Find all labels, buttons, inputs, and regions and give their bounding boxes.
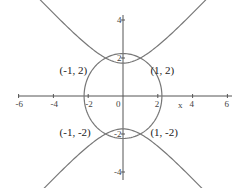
x-tick-label: 4	[190, 99, 195, 109]
x-tick-label: 2	[155, 99, 160, 109]
y-tick-label: 4	[117, 15, 122, 25]
x-tick-label: -2	[85, 99, 93, 109]
x-tick-label: -6	[16, 99, 24, 109]
intersection-label: (-1, -2)	[60, 126, 91, 139]
intersection-label: (-1, 2)	[60, 64, 88, 77]
intersection-label: (1, -2)	[150, 126, 178, 139]
axes	[18, 15, 232, 180]
intersection-label: (1, 2)	[150, 64, 174, 77]
x-axis-label: x	[178, 100, 183, 110]
y-tick-label: -4	[114, 167, 122, 177]
x-tick-label: 0	[116, 99, 121, 109]
plot-area: -6-4-2024642-2-4 x (-1, 2)(1, 2)(-1, -2)…	[0, 0, 247, 188]
x-tick-label: -4	[50, 99, 58, 109]
x-tick-label: 6	[224, 99, 229, 109]
